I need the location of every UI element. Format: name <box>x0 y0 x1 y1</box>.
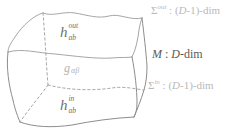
h-out-scripts: out ab <box>69 22 79 41</box>
sigma-in-separator: : ( <box>160 79 172 91</box>
sigma-in-dim-var: D <box>172 79 180 91</box>
edge-left-front <box>7 52 20 122</box>
hidden-edge-bottom-left <box>20 85 48 122</box>
manifold-figure: h out ab g αβ h in ab Σout : (D-1)-dim M… <box>0 0 234 135</box>
m-bulk-tail: -dim <box>180 47 203 61</box>
h-out-superscript: out <box>69 22 79 30</box>
h-in-superscript: in <box>69 95 77 103</box>
hidden-edge-bottom-back <box>48 85 143 90</box>
m-bulk-separator: : <box>162 47 171 61</box>
sigma-out-dim-var: D <box>179 4 187 16</box>
label-h-out: h out ab <box>60 22 78 41</box>
m-bulk-dim-var: D <box>171 47 180 61</box>
h-in-scripts: in ab <box>69 95 77 114</box>
h-out-base: h <box>60 22 68 40</box>
label-sigma-in: Σin : (D-1)-dim <box>148 79 214 92</box>
m-bulk-symbol: M <box>152 47 162 61</box>
label-m-bulk: M : D-dim <box>152 47 203 61</box>
edge-bottom-front <box>20 117 134 127</box>
hidden-edge-back-vertical <box>43 13 48 85</box>
label-h-in: h in ab <box>60 95 76 114</box>
g-bulk-subscript: αβ <box>71 66 79 75</box>
h-out-subscript: ab <box>69 34 79 42</box>
edge-top-left <box>8 13 43 52</box>
edge-front-right <box>132 57 137 117</box>
h-in-base: h <box>60 95 68 113</box>
edge-top-right <box>132 18 142 57</box>
sigma-in-tail: -1)-dim <box>180 79 214 91</box>
edge-top-back <box>43 13 142 19</box>
label-g-bulk: g αβ <box>64 62 79 74</box>
edge-front-top <box>8 50 132 58</box>
h-in-subscript: ab <box>69 107 77 115</box>
label-sigma-out: Σout : (D-1)-dim <box>151 4 220 17</box>
edge-right-silhouette <box>142 18 147 90</box>
sigma-out-separator: : ( <box>166 4 178 16</box>
sigma-out-tail: -1)-dim <box>187 4 221 16</box>
edge-bottom-right <box>134 90 144 117</box>
g-bulk-base: g <box>64 62 70 74</box>
manifold-box-drawing <box>0 0 234 135</box>
